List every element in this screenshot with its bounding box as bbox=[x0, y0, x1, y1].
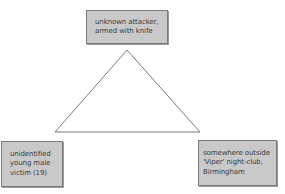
triangle-shape bbox=[55, 50, 200, 132]
node-victim: unidentified young male victim (19) bbox=[1, 141, 63, 187]
node-location: somewhere outside 'Viper' night-club, Bi… bbox=[198, 140, 277, 186]
node-location-line-3: Birmingham bbox=[203, 168, 276, 178]
node-location-line-2: 'Viper' night-club, bbox=[203, 158, 276, 168]
node-victim-line-1: unidentified bbox=[10, 150, 62, 160]
node-victim-line-3: victim (19) bbox=[10, 169, 62, 179]
node-attacker-line-1: unknown attacker, bbox=[95, 18, 167, 28]
node-victim-line-2: young male bbox=[10, 159, 62, 169]
node-attacker-line-2: armed with knife bbox=[95, 27, 167, 37]
node-attacker: unknown attacker, armed with knife bbox=[86, 10, 168, 44]
node-location-line-1: somewhere outside bbox=[203, 149, 276, 159]
